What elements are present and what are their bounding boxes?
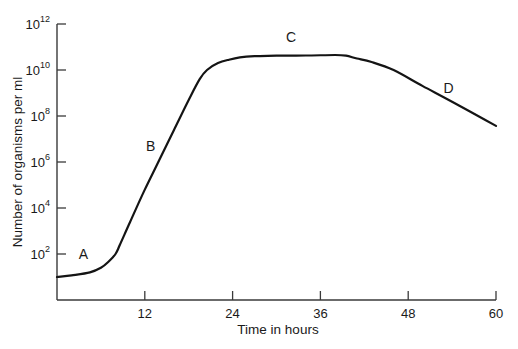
axes	[57, 24, 496, 300]
phase-label-death: D	[443, 80, 453, 96]
x-axis-ticks: 1224364860	[138, 291, 504, 321]
y-tick-label: 102	[31, 244, 50, 262]
y-tick-label: 104	[31, 198, 50, 216]
y-axis-title: Number of organisms per ml	[10, 77, 25, 247]
phase-label-lag: A	[79, 246, 89, 262]
x-tick-label: 12	[138, 306, 152, 321]
growth-curve-chart: 10210410610810101012 1224364860 ABCD Tim…	[0, 0, 518, 349]
x-tick-label: 36	[313, 306, 327, 321]
phase-label-stationary: C	[286, 29, 296, 45]
y-tick-label: 106	[31, 152, 50, 170]
phase-label-exponential: B	[146, 138, 155, 154]
y-axis-ticks: 10210410610810101012	[26, 14, 66, 262]
y-tick-label: 1012	[26, 14, 50, 32]
y-tick-label: 108	[31, 106, 50, 124]
growth-curve-line	[57, 55, 496, 277]
x-tick-label: 24	[225, 306, 239, 321]
phase-annotations: ABCD	[79, 29, 454, 261]
y-tick-label: 1010	[26, 60, 50, 78]
x-axis-title: Time in hours	[237, 322, 319, 337]
x-tick-label: 48	[401, 306, 415, 321]
x-tick-label: 60	[489, 306, 503, 321]
